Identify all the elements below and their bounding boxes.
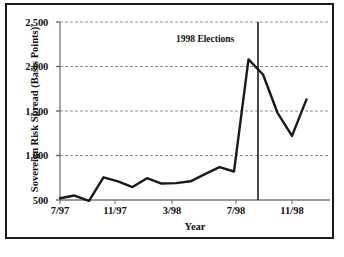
chart-figure: 2,500 2,000 1,500 1,000 500 7/97 11/97 3… (0, 0, 344, 257)
data-series-line (60, 59, 307, 201)
gridlines (60, 22, 330, 156)
plot-area (0, 0, 344, 257)
